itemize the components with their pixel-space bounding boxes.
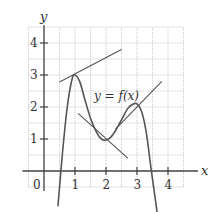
- curve-label: y = f(x): [93, 89, 139, 103]
- x-axis-label: x: [201, 163, 209, 178]
- x-tick-label: 1: [72, 178, 80, 192]
- function-graph: 12341234 x y 0 y = f(x): [0, 0, 215, 212]
- y-tick-label: 2: [30, 100, 38, 114]
- origin-label: 0: [33, 178, 41, 192]
- grid: [29, 27, 184, 187]
- y-axis-label: y: [39, 9, 48, 24]
- x-tick-label: 2: [103, 178, 111, 192]
- y-tick-label: 1: [30, 132, 38, 146]
- x-tick-label: 3: [134, 178, 142, 192]
- tangent-near-min: [78, 113, 128, 158]
- x-tick-label: 4: [165, 178, 173, 192]
- y-tick-label: 4: [30, 36, 38, 50]
- tangent-lines: [60, 49, 162, 158]
- y-tick-label: 3: [30, 68, 38, 82]
- axes: [23, 25, 199, 191]
